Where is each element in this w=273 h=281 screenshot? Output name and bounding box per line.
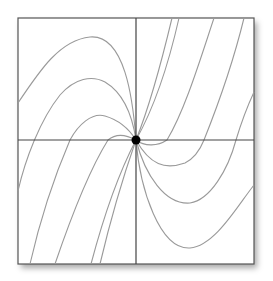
phase-portrait	[0, 0, 273, 281]
equilibrium-point	[132, 136, 141, 145]
